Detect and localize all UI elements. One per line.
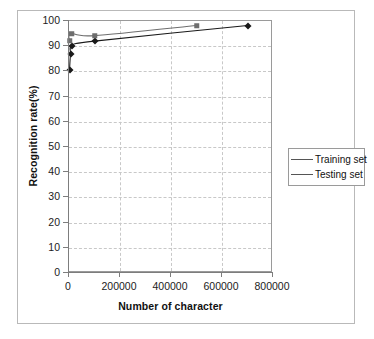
y-axis-tick	[63, 70, 68, 71]
plot-area	[68, 20, 272, 272]
y-axis-title: Recognition rate(%)	[27, 66, 39, 206]
chart-figure: 0102030405060708090100 Recognition rate(…	[0, 0, 374, 339]
y-axis-tick-label: 10	[28, 242, 60, 252]
y-axis-tick	[63, 121, 68, 122]
diamond-marker-icon	[291, 155, 313, 165]
legend-label-training: Training set	[313, 154, 367, 165]
x-axis-title: Number of character	[68, 300, 273, 312]
y-axis-tick	[63, 96, 68, 97]
y-axis-tick-label: 0	[28, 267, 60, 277]
y-axis-tick	[63, 222, 68, 223]
x-axis-tick	[170, 272, 171, 277]
y-axis-tick	[63, 247, 68, 248]
y-axis-tick	[63, 20, 68, 21]
y-axis-tick	[63, 171, 68, 172]
series-lines	[69, 21, 273, 273]
x-axis-tick	[272, 272, 273, 277]
x-axis-tick	[119, 272, 120, 277]
square-marker-icon	[291, 170, 313, 180]
x-axis-tick	[221, 272, 222, 277]
chart-legend: Training set Testing set	[288, 148, 365, 186]
x-axis-tick	[68, 272, 69, 277]
y-axis-tick	[63, 196, 68, 197]
series-line-training	[70, 26, 248, 71]
legend-label-testing: Testing set	[313, 169, 363, 180]
x-axis-tick-label: 800000	[242, 281, 302, 291]
legend-item-testing[interactable]: Testing set	[291, 167, 361, 182]
y-axis-tick	[63, 146, 68, 147]
y-axis-tick-label: 100	[28, 15, 60, 25]
y-axis-line	[68, 20, 69, 273]
legend-item-training[interactable]: Training set	[291, 152, 361, 167]
y-axis-tick	[63, 45, 68, 46]
y-axis-tick-label: 90	[28, 40, 60, 50]
y-axis-tick-label: 20	[28, 217, 60, 227]
